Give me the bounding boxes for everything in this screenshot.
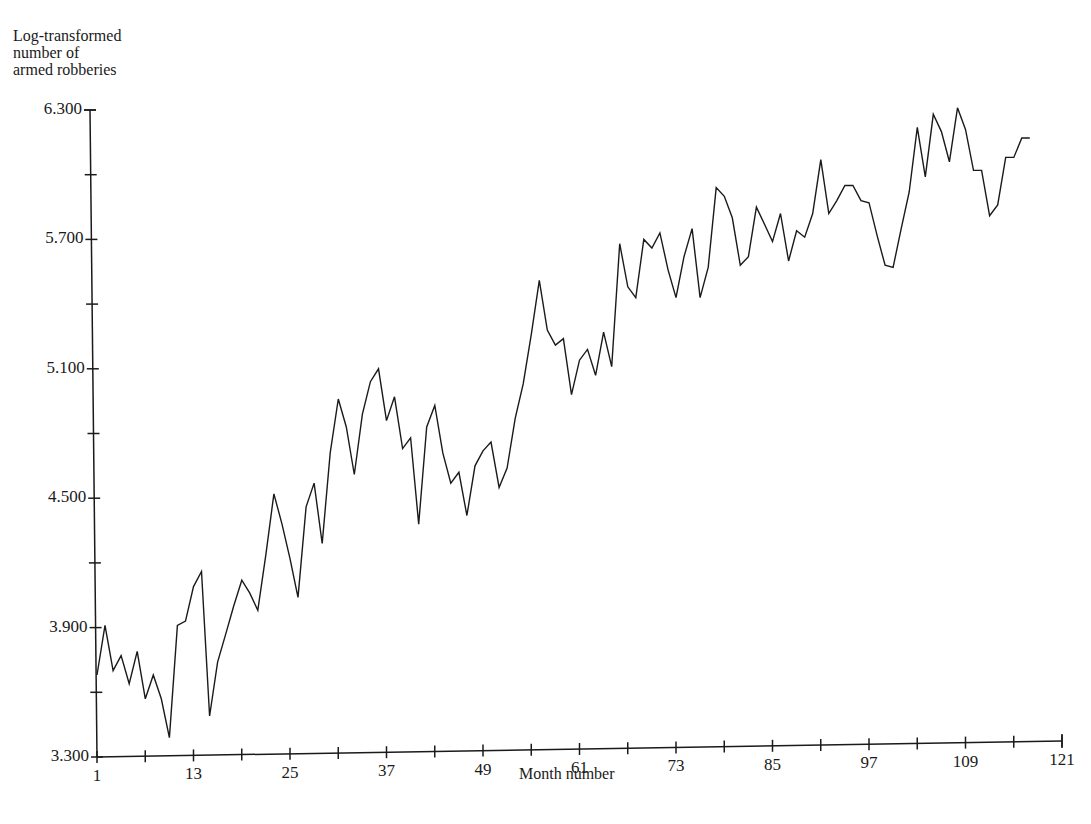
x-axis-title: Month number <box>519 765 615 783</box>
y-tick-label: 3.300 <box>9 746 89 766</box>
x-tick-label: 37 <box>362 761 412 781</box>
y-tick-label: 5.700 <box>3 228 83 248</box>
x-tick-label: 13 <box>169 764 219 784</box>
y-tick-label: 5.100 <box>5 358 85 378</box>
axes <box>84 110 1062 763</box>
y-tick-label: 6.300 <box>2 99 82 119</box>
x-tick-label: 109 <box>941 752 991 772</box>
x-tick-label: 49 <box>458 760 508 780</box>
x-tick-label: 121 <box>1037 750 1087 770</box>
x-tick-label: 73 <box>651 756 701 776</box>
line-chart <box>0 0 1091 824</box>
x-tick-label: 25 <box>265 763 315 783</box>
x-tick-label: 1 <box>72 766 122 786</box>
data-series-line <box>97 108 1030 738</box>
x-tick-label: 85 <box>748 755 798 775</box>
y-tick-label: 4.500 <box>6 487 86 507</box>
x-tick-label: 97 <box>844 753 894 773</box>
y-tick-label: 3.900 <box>8 617 88 637</box>
